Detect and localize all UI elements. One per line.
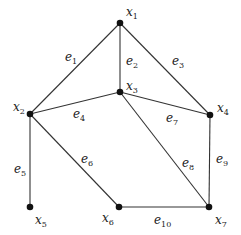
edge-label-e7: e7 [166, 111, 178, 127]
edge-e6 [30, 114, 119, 207]
node-label-subscript: 1 [133, 12, 138, 21]
edge-e7 [120, 92, 210, 115]
graph-diagram: e1e2e3e4e5e6e7e8e9e10x1x2x3x4x5x6x7 [0, 0, 241, 235]
edge-label-base: e [216, 152, 223, 166]
edge-label-e6: e6 [81, 152, 93, 168]
node-x1 [117, 20, 124, 27]
node-label-subscript: 7 [222, 220, 227, 229]
node-x6 [116, 204, 123, 211]
edge-label-e1: e1 [65, 50, 77, 66]
edge-label-e10: e10 [154, 213, 171, 229]
edge-label-e8: e8 [182, 156, 194, 172]
node-label-x2: x2 [13, 100, 25, 116]
node-label-subscript: 6 [109, 218, 114, 227]
edge-label-subscript: 6 [88, 159, 93, 168]
edge-label-subscript: 4 [80, 114, 85, 123]
edge-e1 [30, 23, 120, 114]
node-label-x5: x5 [35, 213, 47, 229]
node-label-x7: x7 [215, 213, 227, 229]
edge-label-e3: e3 [172, 54, 184, 70]
node-label-subscript: 4 [224, 108, 229, 117]
edge-label-subscript: 8 [189, 163, 194, 172]
edge-label-subscript: 3 [179, 61, 184, 70]
edge-label-subscript: 5 [21, 169, 26, 178]
edge-label-base: e [14, 162, 21, 176]
edge-label-subscript: 2 [133, 61, 138, 70]
edge-label-base: e [172, 54, 179, 68]
labels: e1e2e3e4e5e6e7e8e9e10x1x2x3x4x5x6x7 [13, 5, 229, 229]
edge-label-base: e [81, 152, 88, 166]
edge-label-e9: e9 [216, 152, 228, 168]
node-label-x3: x3 [126, 79, 138, 95]
edge-label-subscript: 10 [161, 220, 171, 229]
edge-label-base: e [126, 54, 133, 68]
edge-label-subscript: 7 [173, 118, 178, 127]
node-x2 [27, 111, 34, 118]
edge-label-subscript: 9 [223, 159, 228, 168]
edge-label-base: e [182, 156, 189, 170]
edge-e8 [120, 92, 209, 207]
node-label-subscript: 2 [20, 107, 25, 116]
edge-label-base: e [65, 50, 72, 64]
node-x7 [206, 204, 213, 211]
edge-e9 [209, 115, 210, 207]
node-x5 [27, 204, 34, 211]
node-label-x4: x4 [217, 101, 229, 117]
node-label-subscript: 3 [133, 86, 138, 95]
edge-label-e4: e4 [73, 107, 85, 123]
node-x4 [207, 112, 214, 119]
edge-label-base: e [154, 213, 161, 227]
edge-label-e2: e2 [126, 54, 138, 70]
edge-label-base: e [166, 111, 173, 125]
node-label-x6: x6 [102, 211, 114, 227]
node-x3 [117, 89, 124, 96]
edges [30, 23, 210, 207]
node-label-x1: x1 [126, 5, 138, 21]
edge-label-subscript: 1 [72, 57, 77, 66]
node-label-subscript: 5 [42, 220, 47, 229]
edge-label-e5: e5 [14, 162, 26, 178]
edge-label-base: e [73, 107, 80, 121]
